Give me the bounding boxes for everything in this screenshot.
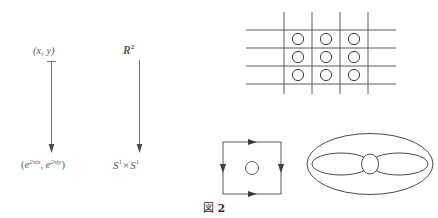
paren-close: ): [62, 159, 66, 170]
torus-diagram: [303, 126, 438, 202]
space-map-arrow: [134, 60, 145, 153]
exp-exponent-2: 2πiy: [50, 158, 61, 165]
bottom-edge-arrow-right: [248, 191, 257, 197]
source-space-symbol: R: [123, 44, 131, 56]
fundamental-square-diagram: [213, 136, 291, 198]
caption-label: 図: [203, 202, 215, 215]
torus-center-circle: [362, 154, 379, 174]
target-space-label: S1×S1: [113, 160, 139, 171]
product-times-symbol: ×: [122, 159, 130, 171]
caption-number: 2: [218, 202, 226, 215]
exp-exponent-1: 2πix: [29, 158, 40, 165]
source-point-label: (x, y): [33, 46, 55, 57]
target-point-label: (e2πix, e2πiy): [21, 160, 65, 171]
point-map-arrow: [46, 61, 57, 153]
source-space-exponent: 2: [131, 43, 135, 51]
right-edge-arrow-down: [278, 164, 284, 173]
circle-exponent-2: 1: [136, 158, 139, 165]
top-edge-arrow-right: [248, 139, 257, 145]
source-space-label: R2: [123, 45, 134, 57]
lattice-circles: [292, 33, 359, 80]
square-outline: [223, 142, 281, 194]
lattice-grid-diagram: [246, 8, 398, 96]
square-interior-circle: [246, 162, 259, 175]
left-edge-arrow-down: [220, 164, 226, 173]
figure-page: (x, y) R2 (e2πix, e2πiy) S1×S1: [0, 0, 438, 218]
figure-caption: 図2: [203, 199, 226, 215]
